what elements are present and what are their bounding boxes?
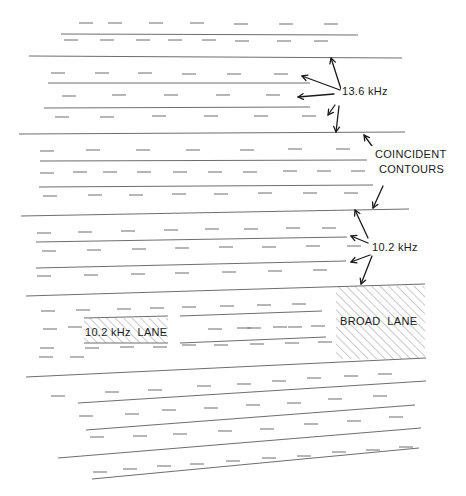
contour-line — [29, 56, 402, 58]
contour-line — [21, 209, 409, 216]
label-13-6-khz: 13.6 kHz — [342, 85, 388, 97]
contour-line — [36, 261, 346, 268]
label-coincident: COINCIDENT — [375, 148, 446, 160]
contour-line — [86, 405, 415, 430]
contour-line — [44, 107, 310, 108]
arrow-13-6-khz — [298, 94, 334, 97]
contour-line — [61, 34, 358, 35]
contour-line — [78, 381, 426, 403]
arrow-10-2-khz — [361, 256, 372, 284]
frequency-lane-diagram: 13.6 kHz COINCIDENT CONTOURS 10.2 kHz 10… — [0, 0, 466, 496]
contour-line — [19, 132, 405, 134]
label-10-2-khz: 10.2 kHz — [372, 241, 418, 253]
contour-line — [39, 185, 373, 187]
contour-line — [40, 160, 367, 161]
arrow-13-6-khz — [331, 58, 341, 89]
contour-line — [26, 358, 426, 377]
label-10-2-khz-lane: 10.2 kHz LANE — [85, 326, 167, 338]
contour-line — [84, 316, 168, 318]
contour-line — [36, 237, 347, 242]
contour-line — [180, 311, 322, 316]
arrow-10-2-khz — [355, 210, 368, 238]
label-broad-lane: BROAD LANE — [340, 315, 417, 327]
label-contours: CONTOURS — [379, 163, 444, 175]
contour-line — [92, 448, 419, 479]
contour-line — [180, 337, 326, 343]
